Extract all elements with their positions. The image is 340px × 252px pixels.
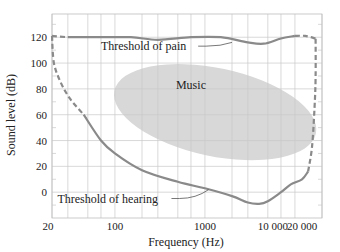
x-tick-label: 20 bbox=[43, 220, 55, 232]
music-label: Music bbox=[176, 78, 206, 92]
y-tick-label: 20 bbox=[36, 160, 48, 172]
y-axis-ticks: 020406080100120 bbox=[31, 31, 48, 198]
x-axis-ticks: 20100100010 00020 000 bbox=[43, 220, 318, 232]
y-tick-label: 0 bbox=[42, 186, 48, 198]
annotation-label: Threshold of hearing bbox=[57, 192, 158, 206]
y-axis-label: Sound level (dB) bbox=[4, 74, 18, 156]
y-tick-label: 100 bbox=[31, 57, 48, 69]
x-axis-label: Frequency (Hz) bbox=[148, 235, 224, 249]
y-tick-label: 80 bbox=[36, 83, 48, 95]
extrapolated-curve bbox=[308, 39, 316, 172]
leader-line bbox=[171, 190, 208, 199]
x-tick-label: 10 000 bbox=[258, 220, 289, 232]
x-tick-label: 1000 bbox=[194, 220, 217, 232]
y-tick-label: 120 bbox=[31, 31, 48, 43]
y-tick-label: 40 bbox=[36, 135, 48, 147]
y-tick-label: 60 bbox=[36, 109, 48, 121]
x-tick-label: 100 bbox=[107, 220, 124, 232]
sound-level-chart: 020406080100120 20100100010 00020 000 Th… bbox=[0, 0, 340, 252]
music-region bbox=[105, 48, 325, 177]
annotation-label: Threshold of pain bbox=[101, 39, 186, 53]
x-tick-label: 20 000 bbox=[287, 220, 318, 232]
leader-line bbox=[198, 42, 232, 46]
music-region-shape bbox=[105, 48, 325, 177]
